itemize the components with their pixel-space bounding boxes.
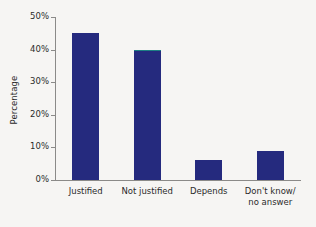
y-tick-mark — [51, 115, 55, 116]
bar-2 — [195, 160, 222, 180]
y-tick-mark — [51, 147, 55, 148]
plot-area: 0%10%20%30%40%50% JustifiedNot justified… — [55, 17, 301, 180]
bar-chart: Percentage 0%10%20%30%40%50% JustifiedNo… — [0, 0, 316, 227]
y-tick-mark — [51, 17, 55, 18]
x-axis-label-0: Justified — [55, 186, 117, 197]
x-axis-label-3: Don't know/ no answer — [240, 186, 302, 208]
y-tick-label: 0% — [36, 174, 50, 184]
y-tick-label: 30% — [30, 76, 49, 86]
x-axis-line — [55, 180, 301, 181]
y-axis-title: Percentage — [9, 55, 19, 145]
y-tick-label: 20% — [30, 109, 49, 119]
y-tick-mark — [51, 180, 55, 181]
y-tick-label: 50% — [30, 11, 49, 21]
x-axis-label-2: Depends — [178, 186, 240, 197]
bar-1 — [134, 50, 161, 180]
y-tick-mark — [51, 50, 55, 51]
y-tick-mark — [51, 82, 55, 83]
y-tick-label: 10% — [30, 141, 49, 151]
x-axis-label-1: Not justified — [117, 186, 179, 197]
y-axis-line — [55, 17, 56, 180]
bar-3 — [257, 151, 284, 180]
bar-0 — [72, 33, 99, 180]
y-tick-label: 40% — [30, 44, 49, 54]
